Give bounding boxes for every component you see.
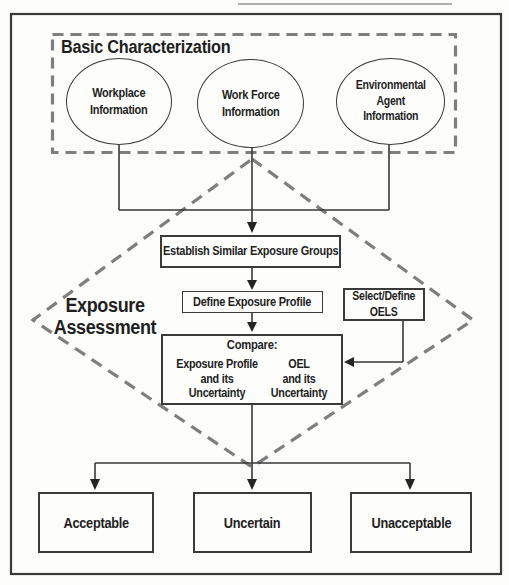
node-acceptable: Acceptable (38, 492, 154, 553)
node-unacceptable-label: Unacceptable (371, 515, 451, 531)
node-unacceptable: Unacceptable (350, 492, 472, 553)
arrowhead-into-unacceptable (405, 479, 415, 490)
node-uncertain-label: Uncertain (224, 515, 280, 531)
node-uncertain: Uncertain (193, 492, 312, 553)
node-define-exposure-profile: Define Exposure Profile (182, 291, 323, 313)
arrowhead-into-uncertain (247, 479, 257, 490)
arrowhead-into-define (247, 280, 257, 290)
arrowhead-into-acceptable (90, 479, 100, 490)
node-establish-similar-exposure-groups: Establish Similar Exposure Groups (160, 235, 341, 268)
arrowhead-into-establish (247, 222, 257, 233)
flowchart-canvas: Basic Characterization Exposure Assessme… (0, 0, 509, 585)
node-environmental-agent-information-label: Environmental Agent Information (356, 78, 426, 125)
compare-right-column: OEL and its Uncertainty (265, 357, 333, 401)
compare-left-column: Exposure Profile and its Uncertainty (170, 357, 264, 401)
arrowhead-into-compare-right (344, 357, 354, 367)
node-oels-label: Select/Define OELS (353, 289, 416, 320)
section-title-basic-characterization: Basic Characterization (61, 37, 230, 58)
node-workplace-information-label: Workplace Information (90, 85, 148, 118)
node-define-label: Define Exposure Profile (193, 294, 311, 310)
section-title-exposure-assessment: Exposure Assessment (43, 294, 167, 338)
node-work-force-information-label: Work Force Information (222, 87, 280, 120)
node-work-force-information: Work Force Information (197, 59, 304, 148)
node-establish-label: Establish Similar Exposure Groups (163, 243, 338, 259)
arrowhead-into-compare-top (247, 322, 257, 332)
compare-title: Compare: (172, 338, 332, 352)
node-environmental-agent-information: Environmental Agent Information (336, 58, 445, 145)
node-compare: Compare: Exposure Profile and its Uncert… (161, 334, 343, 405)
node-select-define-oels: Select/Define OELS (343, 288, 425, 321)
node-acceptable-label: Acceptable (63, 515, 128, 531)
node-workplace-information: Workplace Information (66, 58, 172, 145)
